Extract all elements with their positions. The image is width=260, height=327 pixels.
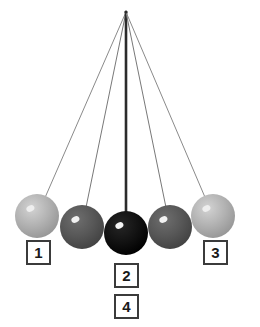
callout-label-1: 1	[26, 240, 51, 265]
pivot-point	[124, 10, 127, 13]
callout-label-3: 3	[203, 240, 228, 265]
string-ball-left-outer	[45, 12, 126, 199]
callout-label-4-text: 4	[122, 298, 130, 315]
ball-center	[104, 211, 148, 255]
string-ball-left-inner	[86, 12, 126, 208]
callout-label-3-text: 3	[211, 244, 219, 261]
ball-right-outer	[191, 194, 235, 238]
callout-label-1-text: 1	[34, 244, 42, 261]
ball-left-inner	[60, 205, 104, 249]
callout-label-4: 4	[114, 294, 139, 319]
callout-label-2: 2	[114, 263, 139, 288]
callout-label-2-text: 2	[122, 267, 130, 284]
string-ball-right-outer	[126, 12, 206, 199]
pendulum-strings	[45, 12, 206, 214]
ball-right-inner	[148, 205, 192, 249]
ball-left-outer	[15, 194, 59, 238]
pendulum-diagram: 1 3 2 4	[0, 0, 260, 327]
string-ball-right-inner	[126, 12, 166, 208]
